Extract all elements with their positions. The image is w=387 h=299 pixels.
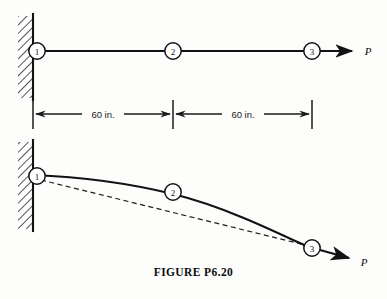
dimension-label-2: 60 in. [231,109,254,120]
dimension-span-2: 60 in. [176,109,309,120]
figure-caption: FIGURE P6.20 [0,266,387,278]
node-2-top: 2 [165,43,181,59]
dimension-span-1: 60 in. [36,109,170,120]
fixed-support-wall-bottom [18,140,33,231]
node-1-top: 1 [29,43,45,59]
dimension-label-1: 60 in. [91,109,114,120]
node-2-top-label: 2 [171,47,176,57]
node-1-top-label: 1 [35,47,40,57]
node-1-bottom-label: 1 [35,172,40,182]
load-arrow-bottom [320,250,349,258]
deformed-diagram: 1 2 3 P [18,140,368,268]
node-1-bottom: 1 [29,168,45,184]
load-label-top: P [364,45,372,57]
node-3-bottom: 3 [304,240,320,256]
node-2-bottom-label: 2 [171,188,176,198]
node-3-top-label: 3 [310,47,315,57]
node-2-bottom: 2 [165,184,181,200]
engineering-figure-drawing: 1 2 3 P 60 in. [0,0,387,299]
node-3-top: 3 [304,43,320,59]
node-3-bottom-label: 3 [310,244,315,254]
dimension-line-group: 60 in. 60 in. [33,100,312,129]
undeformed-diagram: 1 2 3 P [18,14,372,100]
figure-container: 1 2 3 P 60 in. [0,0,387,299]
